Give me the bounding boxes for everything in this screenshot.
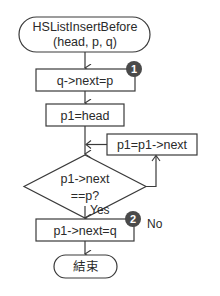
process-box-loop-step: p1=p1->next — [107, 134, 197, 155]
decision-label-line1: p1->next — [61, 172, 111, 186]
end-terminator: 結束 — [54, 255, 117, 278]
step3-number-badge: 2 — [125, 211, 141, 227]
start-label-line2: (head, p, q) — [53, 35, 117, 49]
step2-label: p1=head — [60, 109, 109, 123]
start-label-line1: HSListInsertBefore — [33, 20, 138, 34]
process-box-step1: q->next=p — [36, 69, 135, 91]
no-label: No — [147, 217, 163, 231]
flowchart-canvas: HSListInsertBefore (head, p, q) q->next=… — [0, 0, 220, 296]
decision-label-line2: ==p? — [71, 189, 100, 203]
step3-label: p1->next=q — [53, 224, 116, 238]
loop-step-label: p1=p1->next — [117, 138, 188, 152]
process-box-step3: p1->next=q — [36, 219, 134, 241]
step1-number-badge: 1 — [126, 61, 142, 77]
start-terminator: HSListInsertBefore (head, p, q) — [19, 17, 150, 52]
svg-text:2: 2 — [130, 213, 136, 225]
yes-label: Yes — [90, 203, 110, 217]
process-box-step2: p1=head — [46, 104, 124, 126]
svg-text:1: 1 — [131, 63, 137, 75]
arrow-no-branch — [146, 156, 156, 187]
step1-label: q->next=p — [57, 74, 113, 88]
end-label: 結束 — [73, 260, 99, 274]
